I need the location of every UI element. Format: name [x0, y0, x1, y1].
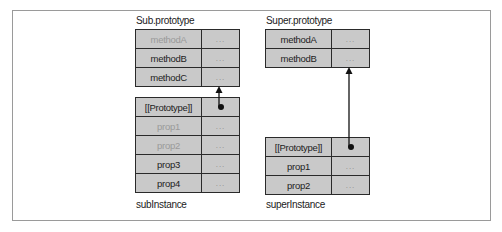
prototype-arrows — [0, 0, 502, 232]
sub-prototype-arrow-icon — [216, 86, 223, 107]
super-prototype-arrow-icon — [346, 67, 353, 147]
